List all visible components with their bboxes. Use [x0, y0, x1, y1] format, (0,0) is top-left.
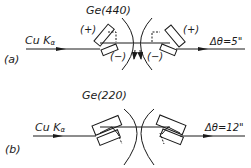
left-lower-sign-a: (−): [110, 51, 126, 62]
crystal-label-b: Ge(220): [82, 89, 127, 102]
rotation-arrow-right: [140, 50, 141, 59]
arrow-icon: [203, 134, 213, 138]
source-label-a: Cu Kα: [25, 34, 55, 47]
panel-a: Ge(440) (+) (+) (−) (−) Cu Kα (a) Δθ=5": [4, 4, 245, 70]
left-upper-sign-a: (+): [80, 24, 96, 35]
arc-left-b: [124, 109, 137, 165]
left-crystal-a: [94, 24, 118, 55]
output-label-a: Δθ=5": [209, 36, 242, 47]
crystal-label-a: Ge(440): [86, 4, 131, 17]
arrow-icon: [53, 134, 63, 138]
arrow-icon: [198, 47, 208, 51]
arc-right-a: [141, 18, 153, 70]
rotation-arrow-left: [134, 50, 135, 59]
right-upper-sign-a: (+): [183, 24, 199, 35]
panel-b: Ge(220) Cu Kα (b) Δθ=12": [5, 89, 245, 165]
right-crystal-b: [156, 115, 186, 145]
arc-right-b: [141, 109, 154, 165]
panel-label-b: (b): [5, 143, 21, 156]
panel-label-a: (a): [4, 53, 19, 66]
arc-left-a: [122, 18, 134, 70]
left-crystal-b: [92, 116, 122, 146]
monochromator-diagram: Ge(440) (+) (+) (−) (−) Cu Kα (a) Δθ=5": [0, 0, 251, 168]
right-lower-sign-a: (−): [147, 51, 163, 62]
source-label-b: Cu Kα: [35, 121, 65, 134]
arrow-icon: [56, 47, 66, 51]
output-label-b: Δθ=12": [204, 122, 244, 133]
